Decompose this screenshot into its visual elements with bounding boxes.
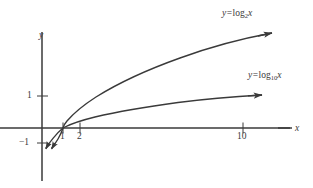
curve-label-log10-fn: log [259, 70, 271, 80]
curve-log10-right-arrow [248, 95, 262, 96]
curve-label-log10-arg: x [277, 70, 281, 80]
x-tick-label-1: 1 [60, 132, 65, 142]
curve-log2-right-arrow [258, 33, 272, 36]
y-tick-label-1: 1 [27, 91, 32, 101]
curve-label-log2: y=log2x [222, 9, 252, 19]
y-tick-label-neg1: −1 [19, 138, 29, 148]
y-axis-label: y [39, 31, 43, 41]
logarithm-graph-figure: y x 1 2 10 1 −1 y=log2x y=log10x [0, 0, 313, 188]
x-tick-label-2: 2 [77, 132, 82, 142]
curve-label-log2-fn: log [233, 8, 245, 18]
curve-log10-left-arrow [46, 143, 49, 149]
curve-label-log10-base: 10 [271, 74, 278, 81]
curve-label-log10: y=log10x [248, 71, 282, 81]
plot-canvas [0, 0, 313, 188]
curve-label-log2-arg: x [248, 8, 252, 18]
x-axis-label: x [295, 124, 299, 134]
curve-label-log2-base: 2 [245, 12, 248, 19]
curve-log2-left-arrow [52, 143, 55, 149]
x-tick-label-10: 10 [237, 132, 247, 142]
